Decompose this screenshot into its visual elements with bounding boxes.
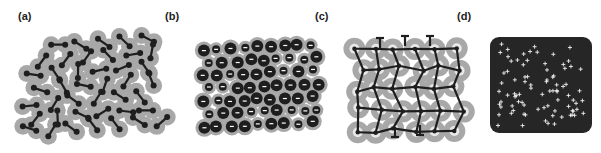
panel-c-network — [343, 36, 474, 144]
panel-a-dumbbells — [14, 27, 176, 145]
panel-d-crosses — [490, 37, 592, 133]
figure-canvas — [0, 0, 601, 153]
panel-b-particles — [194, 36, 328, 137]
